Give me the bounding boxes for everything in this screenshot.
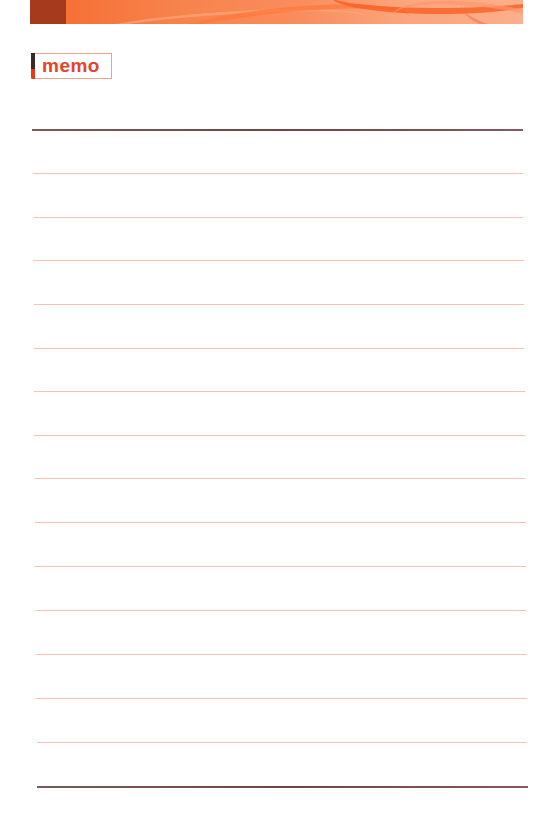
ruled-line bbox=[34, 348, 524, 349]
banner-dark-block bbox=[30, 0, 66, 24]
ruled-line bbox=[33, 260, 524, 261]
badge-accent-bar-top bbox=[31, 53, 35, 69]
ruled-line bbox=[34, 435, 525, 436]
badge-accent-bar-bottom bbox=[31, 69, 35, 79]
ruled-line bbox=[34, 304, 524, 305]
ruled-line bbox=[33, 173, 523, 174]
ruled-line bbox=[33, 217, 523, 218]
memo-title: memo bbox=[42, 55, 100, 77]
ruled-line bbox=[35, 566, 526, 567]
memo-title-badge: memo bbox=[31, 53, 112, 79]
ruled-line bbox=[36, 654, 527, 655]
ruled-line bbox=[35, 478, 525, 479]
ruled-line bbox=[37, 742, 527, 743]
ruled-border-line bbox=[37, 786, 528, 788]
ruled-border-line bbox=[32, 129, 523, 131]
header-banner bbox=[30, 0, 523, 24]
ruled-line bbox=[34, 391, 525, 392]
ruled-line bbox=[36, 610, 526, 611]
ruled-line bbox=[36, 698, 527, 699]
ruled-line bbox=[35, 522, 526, 523]
